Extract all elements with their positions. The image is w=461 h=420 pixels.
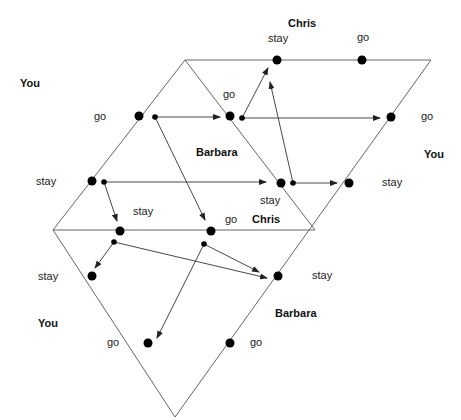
- node-chris-lower-stay: [116, 227, 125, 236]
- label-barbara-go: go: [223, 88, 235, 100]
- node-you-go-bottom: [144, 339, 153, 348]
- label-you-stay-bottom: stay: [38, 270, 58, 282]
- label-you-go-left: go: [94, 110, 106, 122]
- node-barbara-stay-bottom: [274, 272, 283, 281]
- arrow: [155, 117, 205, 220]
- arrow: [270, 82, 293, 183]
- label-you-top: You: [20, 77, 40, 89]
- label-chris-go: go: [357, 31, 369, 43]
- label-chris-stay: stay: [268, 32, 288, 44]
- label-barbara-bottom: Barbara: [275, 307, 317, 319]
- arrow: [95, 242, 114, 268]
- node-you-stay-right: [345, 179, 354, 188]
- label-barbara-go-bottom: go: [250, 336, 262, 348]
- arrow: [114, 242, 267, 278]
- node-you-stay-left: [88, 177, 97, 186]
- label-barbara-stay: stay: [260, 194, 280, 206]
- arrow: [204, 244, 259, 272]
- label-you-bottom: You: [38, 317, 58, 329]
- node-barbara-stay: [277, 179, 286, 188]
- arrow: [104, 182, 117, 221]
- arrow-origin: [239, 115, 245, 121]
- arrow-origin: [201, 241, 207, 247]
- frame-lines: [53, 60, 431, 417]
- node-chris-go: [358, 56, 367, 65]
- label-you-stay-right: stay: [382, 176, 402, 188]
- label-barbara-stay-bottom: stay: [312, 269, 332, 281]
- label-chris-lower-go: go: [225, 213, 237, 225]
- arrows: [95, 68, 380, 338]
- inner-diagonal: [185, 60, 315, 230]
- left-edge-lower: [53, 230, 175, 417]
- label-chris-lower-stay: stay: [133, 205, 153, 217]
- label-chris-lower: Chris: [252, 213, 280, 225]
- node-chris-lower-go: [207, 227, 216, 236]
- label-you-right: You: [424, 148, 444, 160]
- node-you-go-right: [387, 113, 396, 122]
- nodes: [88, 56, 396, 348]
- node-you-go-left: [135, 112, 144, 121]
- node-barbara-go-bottom: [226, 339, 235, 348]
- node-barbara-go: [226, 112, 235, 121]
- arrow-origin: [111, 239, 117, 245]
- label-you-stay-left: stay: [36, 175, 56, 187]
- label-barbara-mid: Barbara: [196, 146, 238, 158]
- node-chris-stay: [273, 56, 282, 65]
- label-you-go-bottom: go: [107, 336, 119, 348]
- left-edge-upper: [53, 60, 185, 230]
- arrow-origin: [152, 114, 158, 120]
- label-you-go-right: go: [421, 110, 433, 122]
- arrow-origin: [101, 179, 107, 185]
- game-diagram: [0, 0, 461, 420]
- node-you-stay-bottom: [88, 272, 97, 281]
- arrow-origin: [290, 180, 296, 186]
- label-chris-top: Chris: [288, 17, 316, 29]
- arrow: [242, 68, 268, 118]
